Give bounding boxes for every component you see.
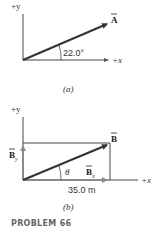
problem-label: PROBLEM 66 xyxy=(11,219,71,228)
angle-arc-a xyxy=(59,45,61,60)
caption-b: (b) xyxy=(63,202,74,212)
vector-b-label: B xyxy=(111,133,117,144)
x-axis-label-b: +x xyxy=(141,175,151,185)
x-component-label: B x xyxy=(86,166,95,179)
svg-text:x: x xyxy=(91,173,95,179)
svg-text:B: B xyxy=(111,134,117,144)
x-axis-label-a: +x xyxy=(112,55,122,65)
figure-a: +y +x A 22.0° (a) xyxy=(11,1,122,94)
vector-diagram: +y +x A 22.0° (a) +y +x B B y xyxy=(0,0,158,232)
angle-label-a: 22.0° xyxy=(63,48,85,58)
vector-a-label: A xyxy=(111,14,118,25)
caption-a: (a) xyxy=(63,84,74,94)
figure-b: +y +x B B y B x θ 35.0 m (b) xyxy=(9,104,151,212)
y-component-label: B y xyxy=(9,149,18,162)
angle-label-b: θ xyxy=(65,167,70,177)
length-label-b: 35.0 m xyxy=(68,185,96,195)
y-axis-label-b: +y xyxy=(11,104,21,114)
y-axis-label-a: +y xyxy=(11,1,21,11)
svg-text:y: y xyxy=(14,156,18,162)
svg-text:A: A xyxy=(111,15,118,25)
angle-arc-b xyxy=(59,166,61,180)
